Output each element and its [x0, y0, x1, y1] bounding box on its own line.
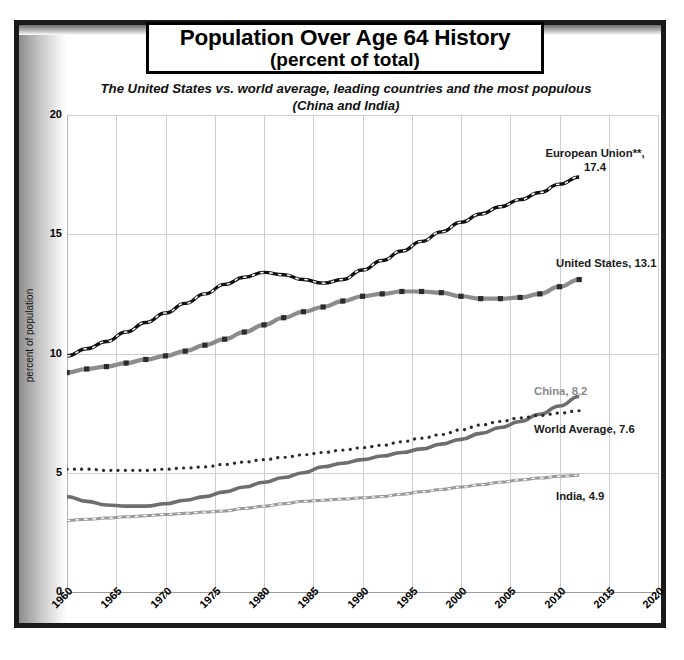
series-united-states: [67, 277, 582, 375]
y-axis-tick-label: 20: [22, 108, 62, 120]
y-axis-tick-label: 15: [22, 227, 62, 239]
y-axis-title: percent of population: [24, 271, 35, 401]
chart-title-box: Population Over Age 64 History (percent …: [146, 22, 544, 74]
y-axis-tick-label: 5: [22, 466, 62, 478]
annotation-united-states: United States, 13.1: [556, 256, 656, 270]
series-european-union: [67, 177, 579, 356]
series-india: [67, 475, 579, 520]
chart-title-secondary: (percent of total): [270, 50, 420, 70]
chart-figure: Population Over Age 64 History (percent …: [0, 0, 684, 660]
gridline-vertical: [658, 115, 659, 592]
series-china: [67, 396, 579, 506]
chart-title-primary: Population Over Age 64 History: [180, 27, 511, 50]
annotation-world-average: World Average, 7.6: [534, 422, 635, 436]
annotation-european-union: European Union**, 17.4: [535, 146, 655, 174]
series-world-average: [67, 411, 579, 471]
annotation-china: China, 8.2: [534, 384, 587, 398]
chart-subtitle: The United States vs. world average, lea…: [96, 80, 596, 115]
data-series-lines: [67, 115, 658, 592]
annotation-india: India, 4.9: [556, 489, 604, 503]
